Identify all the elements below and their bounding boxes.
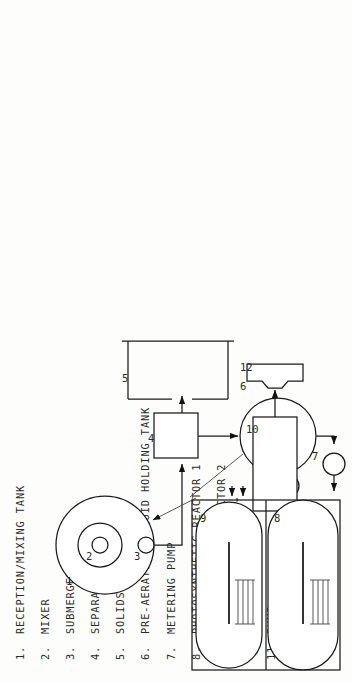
solids-hopper: 5 xyxy=(122,341,234,399)
ref-label-7: 7 xyxy=(312,450,318,462)
ref-label-6: 6 xyxy=(240,380,246,392)
mixer: 2 xyxy=(78,523,122,567)
figure-page: 1. RECEPTION/MIXING TANK 2. MIXER 3. SUB… xyxy=(0,0,352,682)
ref-label-2: 2 xyxy=(86,550,92,562)
ref-label-5: 5 xyxy=(122,372,128,384)
ref-label-1: 1 xyxy=(66,575,72,587)
ref-label-12: 12 xyxy=(240,361,253,373)
leader-line-tank6 xyxy=(190,454,243,497)
metering-pump: 7 xyxy=(312,450,345,475)
ref-label-9: 9 xyxy=(200,512,206,524)
ref-label-3: 3 xyxy=(134,550,140,562)
pipe-holding-tank-to-reactors xyxy=(232,486,243,496)
centrifuge: 12 xyxy=(240,361,303,388)
ref-label-4: 4 xyxy=(148,432,154,444)
leader-line-tank1 xyxy=(153,498,196,520)
photosynthetic-reactor-2: 9 xyxy=(196,502,262,668)
pipe-pump3-to-separator xyxy=(154,464,182,545)
holding-tank: 10 xyxy=(246,417,297,511)
ref-label-10: 10 xyxy=(246,423,259,435)
process-flow-diagram: 1 2 3 4 xyxy=(0,0,352,682)
ref-label-8: 8 xyxy=(274,512,280,524)
separator: 4 xyxy=(148,413,198,458)
pipe-tank6-to-metering-pump xyxy=(316,436,334,444)
figure-rotor: 1. RECEPTION/MIXING TANK 2. MIXER 3. SUB… xyxy=(0,0,352,682)
photosynthetic-reactor-1: 8 xyxy=(268,500,338,670)
